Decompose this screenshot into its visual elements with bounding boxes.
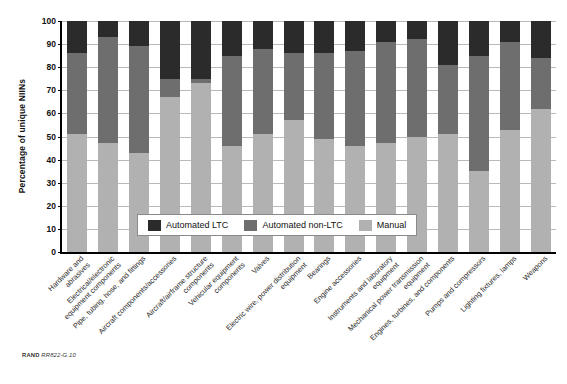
bar-segment-automated-ltc[interactable] xyxy=(500,21,520,42)
bar-segment-automated-ltc[interactable] xyxy=(438,21,458,65)
bar-segment-automated-non-ltc[interactable] xyxy=(98,37,118,143)
legend-item-automated-ltc[interactable]: Automated LTC xyxy=(148,220,228,231)
y-axis-tick-label: 40 xyxy=(28,156,56,165)
y-axis-tick-label: 20 xyxy=(28,202,56,211)
bar-segment-automated-non-ltc[interactable] xyxy=(438,65,458,134)
bar-segment-automated-non-ltc[interactable] xyxy=(253,49,273,134)
legend-swatch-icon xyxy=(148,220,161,231)
bar-segment-automated-non-ltc[interactable] xyxy=(284,53,304,120)
x-axis-label-line: Weapons xyxy=(521,254,549,282)
source-note-id: RR822-G.10 xyxy=(41,352,76,358)
legend-swatch-icon xyxy=(244,220,257,231)
x-axis-label: Valves xyxy=(249,254,271,276)
y-axis-tick-label: 60 xyxy=(28,109,56,118)
legend-label: Automated LTC xyxy=(166,220,228,230)
bar-segment-automated-non-ltc[interactable] xyxy=(469,56,489,172)
bar-segment-automated-ltc[interactable] xyxy=(345,21,365,51)
bar-segment-automated-non-ltc[interactable] xyxy=(345,51,365,146)
bar-segment-automated-non-ltc[interactable] xyxy=(222,56,242,146)
bar-segment-automated-ltc[interactable] xyxy=(222,21,242,56)
bar-segment-manual[interactable] xyxy=(438,134,458,252)
bar-segment-automated-ltc[interactable] xyxy=(191,21,211,79)
bar-segment-automated-ltc[interactable] xyxy=(284,21,304,53)
bar-segment-manual[interactable] xyxy=(67,134,87,252)
bar-segment-automated-ltc[interactable] xyxy=(253,21,273,49)
bar-segment-automated-ltc[interactable] xyxy=(376,21,396,42)
y-axis-tick-label: 0 xyxy=(28,248,56,257)
bar-segment-automated-non-ltc[interactable] xyxy=(67,53,87,134)
bar-slot[interactable] xyxy=(93,21,124,252)
x-axis-label-line: equipment xyxy=(230,260,308,338)
bar-slot[interactable] xyxy=(463,21,494,252)
gridline xyxy=(62,252,556,253)
bar-segment-automated-non-ltc[interactable] xyxy=(314,53,334,138)
bar-segment-automated-non-ltc[interactable] xyxy=(531,58,551,109)
bar-slot[interactable] xyxy=(525,21,556,252)
legend-label: Automated non-LTC xyxy=(262,220,342,230)
x-axis-label: Lighting fixtures, lamps xyxy=(458,254,518,314)
stacked-bar[interactable] xyxy=(469,21,489,252)
x-axis-label-line: Bearings xyxy=(306,254,333,281)
bar-segment-automated-non-ltc[interactable] xyxy=(500,42,520,130)
x-axis-labels: Hardware andabrasivesElectrical/electron… xyxy=(60,254,554,364)
y-axis-tick-label: 10 xyxy=(28,225,56,234)
y-axis-tick-label: 30 xyxy=(28,179,56,188)
x-axis-label-line: Lighting fixtures, lamps xyxy=(458,254,518,314)
y-axis-tick-label: 90 xyxy=(28,40,56,49)
source-note: RAND RR822-G.10 xyxy=(22,352,76,358)
legend-swatch-icon xyxy=(359,220,372,231)
y-axis-tick-label: 80 xyxy=(28,63,56,72)
bar-segment-automated-ltc[interactable] xyxy=(98,21,118,37)
bar-segment-automated-ltc[interactable] xyxy=(129,21,149,46)
bar-segment-automated-ltc[interactable] xyxy=(67,21,87,53)
legend-item-automated-non-ltc[interactable]: Automated non-LTC xyxy=(244,220,342,231)
bar-segment-manual[interactable] xyxy=(500,130,520,252)
bar-segment-manual[interactable] xyxy=(222,146,242,252)
bar-segment-automated-ltc[interactable] xyxy=(314,21,334,53)
bar-segment-manual[interactable] xyxy=(345,146,365,252)
x-axis-label: Weapons xyxy=(521,254,549,282)
bar-segment-automated-non-ltc[interactable] xyxy=(160,79,180,97)
x-axis-label: Bearings xyxy=(306,254,333,281)
figure-chart-unique-niins: Percentage of unique NIINs 0102030405060… xyxy=(0,0,567,384)
bar-segment-automated-non-ltc[interactable] xyxy=(407,39,427,136)
x-axis-label: Pumps and compressors xyxy=(423,254,487,318)
bar-segment-automated-non-ltc[interactable] xyxy=(129,46,149,152)
bar-segment-automated-ltc[interactable] xyxy=(407,21,427,39)
bar-segment-manual[interactable] xyxy=(129,153,149,252)
y-axis-title-text: Percentage of unique NIINs xyxy=(17,79,27,193)
stacked-bar[interactable] xyxy=(67,21,87,252)
y-axis-tick-label: 50 xyxy=(28,133,56,142)
bar-segment-automated-ltc[interactable] xyxy=(531,21,551,58)
bar-slot[interactable] xyxy=(433,21,464,252)
stacked-bar[interactable] xyxy=(500,21,520,252)
bar-segment-automated-ltc[interactable] xyxy=(469,21,489,56)
legend-label: Manual xyxy=(377,220,407,230)
x-axis-label-line: Valves xyxy=(249,254,271,276)
bar-segment-manual[interactable] xyxy=(531,109,551,252)
y-axis-tick-label: 70 xyxy=(28,86,56,95)
source-note-prefix: RAND xyxy=(22,352,40,358)
stacked-bar[interactable] xyxy=(98,21,118,252)
y-axis-tick-mark xyxy=(58,252,62,253)
bar-segment-automated-non-ltc[interactable] xyxy=(376,42,396,144)
bar-slot[interactable] xyxy=(494,21,525,252)
stacked-bar[interactable] xyxy=(531,21,551,252)
x-axis-label-line: Pumps and compressors xyxy=(423,254,487,318)
legend: Automated LTCAutomated non-LTCManual xyxy=(137,214,417,236)
legend-item-manual[interactable]: Manual xyxy=(359,220,407,231)
bar-slot[interactable] xyxy=(62,21,93,252)
stacked-bar[interactable] xyxy=(438,21,458,252)
bar-segment-automated-ltc[interactable] xyxy=(160,21,180,79)
bar-segment-manual[interactable] xyxy=(98,143,118,252)
y-axis-tick-label: 100 xyxy=(28,17,56,26)
bar-segment-manual[interactable] xyxy=(469,171,489,252)
